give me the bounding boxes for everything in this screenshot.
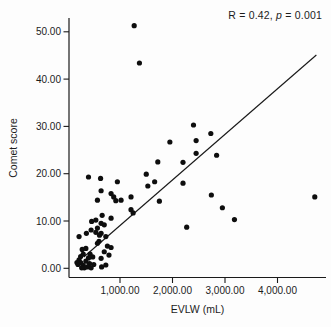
data-point <box>191 122 196 127</box>
y-tick-label: 10.00 <box>36 216 61 227</box>
annotation-r-text: R = 0.42, <box>228 9 276 21</box>
x-tick-label: 1,000.00 <box>101 285 140 296</box>
data-point <box>194 138 199 143</box>
data-point <box>155 159 160 164</box>
data-point <box>194 151 199 156</box>
y-tick-label: 20.00 <box>36 168 61 179</box>
data-point <box>108 245 113 250</box>
data-point <box>137 60 142 65</box>
data-point <box>214 153 219 158</box>
data-point <box>145 183 150 188</box>
y-tick-label: 0.00 <box>42 263 62 274</box>
data-point <box>152 179 157 184</box>
data-point <box>180 160 185 165</box>
data-point <box>99 264 104 269</box>
data-point <box>144 172 149 177</box>
data-point <box>113 198 118 203</box>
data-point <box>95 241 100 246</box>
data-point <box>76 234 81 239</box>
regression-line <box>84 55 317 257</box>
data-point <box>95 198 100 203</box>
data-point <box>184 225 189 230</box>
data-point <box>132 23 137 28</box>
data-point <box>208 131 213 136</box>
data-point <box>131 210 136 215</box>
x-axis-title: EVLW (mL) <box>69 303 326 315</box>
data-point <box>89 227 94 232</box>
data-point <box>86 174 91 179</box>
annotation-p-value: = 0.001 <box>282 9 322 21</box>
data-point <box>115 179 120 184</box>
y-axis-title: Comet score <box>7 108 19 188</box>
plot-area: 0.0010.0020.0030.0040.0050.001,000.002,0… <box>0 0 331 327</box>
scatter-figure: 0.0010.0020.0030.0040.0050.001,000.002,0… <box>0 0 331 327</box>
x-tick-label: 3,000.00 <box>206 285 245 296</box>
data-point <box>103 234 108 239</box>
data-point <box>108 216 113 221</box>
data-point <box>209 192 214 197</box>
data-point <box>84 231 89 236</box>
data-point <box>100 213 105 218</box>
data-point <box>128 194 133 199</box>
data-point <box>118 198 123 203</box>
data-point <box>89 265 94 270</box>
data-point <box>98 176 103 181</box>
data-point <box>102 222 107 227</box>
data-point <box>97 233 102 238</box>
data-point <box>167 139 172 144</box>
data-point <box>312 194 317 199</box>
data-point <box>99 256 104 261</box>
y-tick-label: 30.00 <box>36 121 61 132</box>
data-point <box>157 199 162 204</box>
x-tick-label: 2,000.00 <box>153 285 192 296</box>
correlation-annotation: R = 0.42, p = 0.001 <box>228 9 322 21</box>
data-point <box>102 249 107 254</box>
x-tick-label: 4,000.00 <box>258 285 297 296</box>
data-point <box>89 219 94 224</box>
data-point <box>99 188 104 193</box>
y-tick-label: 50.00 <box>36 26 61 37</box>
data-point <box>232 217 237 222</box>
data-point <box>80 247 85 252</box>
y-tick-label: 40.00 <box>36 74 61 85</box>
data-point <box>106 252 111 257</box>
data-point <box>220 205 225 210</box>
data-point <box>180 181 185 186</box>
data-point <box>79 265 84 270</box>
